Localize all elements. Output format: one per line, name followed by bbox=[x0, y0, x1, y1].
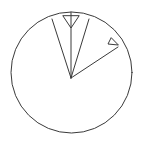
geometry-diagram-svg bbox=[0, 0, 144, 141]
angle-mark-right bbox=[108, 38, 118, 45]
geometry-figure-canvas bbox=[0, 0, 144, 141]
ray-diagonal-right bbox=[71, 47, 118, 78]
ray-up-right bbox=[71, 19, 89, 78]
ray-up-left bbox=[52, 19, 71, 78]
